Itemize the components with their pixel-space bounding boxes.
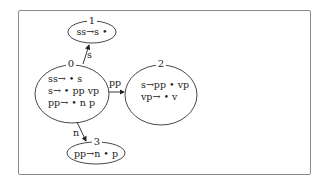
state-item: vp→ • v bbox=[140, 91, 178, 102]
state-number: 2 bbox=[158, 58, 164, 69]
edge-label: n bbox=[73, 127, 79, 138]
state-node-2: 2 s→pp • vp vp→ • v bbox=[125, 58, 197, 125]
state-item: ss→s • bbox=[76, 26, 107, 37]
state-node-1: 1 ss→s • bbox=[68, 15, 116, 43]
state-item: pp→n • p bbox=[74, 148, 118, 159]
edge-label: s bbox=[87, 49, 92, 60]
state-item: pp→ • n p bbox=[48, 97, 95, 108]
state-node-3: 3 pp→n • p bbox=[67, 136, 125, 164]
state-number: 0 bbox=[68, 58, 74, 69]
edge-0-1: s bbox=[83, 45, 92, 64]
state-node-0: 0 ss→ • s s→ • pp vp pp→ • n p bbox=[35, 58, 109, 123]
state-number: 1 bbox=[89, 15, 95, 26]
state-item: ss→ • s bbox=[48, 73, 82, 84]
edge-0-2: pp bbox=[109, 77, 124, 92]
state-item: s→ • pp vp bbox=[48, 85, 99, 96]
edge-0-3: n bbox=[73, 122, 86, 141]
state-item: s→pp • vp bbox=[141, 79, 189, 90]
edge-label: pp bbox=[109, 77, 121, 88]
state-diagram: 1 ss→s • 0 ss→ • s s→ • pp vp pp→ • n p … bbox=[0, 0, 329, 185]
state-number: 3 bbox=[94, 136, 100, 147]
